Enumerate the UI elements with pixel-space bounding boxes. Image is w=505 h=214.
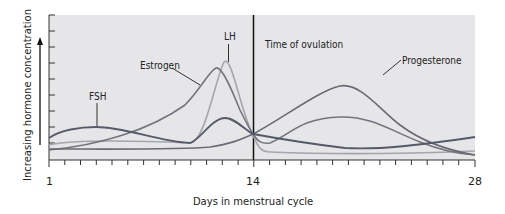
fsh-label: FSH: [89, 91, 106, 102]
y-axis-label: Increasing hormone concentration: [22, 9, 33, 181]
y-arrow-head-icon: [37, 37, 43, 45]
x-axis-label: Days in menstrual cycle: [193, 196, 313, 207]
x-tick-28: 28: [468, 175, 482, 188]
hormone-chart: FSH Estrogen LH Time of ovulation Proges…: [0, 0, 505, 214]
progesterone-label: Progesterone: [402, 55, 462, 66]
x-tick-1: 1: [46, 175, 53, 188]
x-axis: [49, 160, 475, 167]
ovulation-label: Time of ovulation: [264, 39, 343, 50]
lh-label: LH: [224, 31, 236, 42]
x-tick-14: 14: [246, 175, 260, 188]
